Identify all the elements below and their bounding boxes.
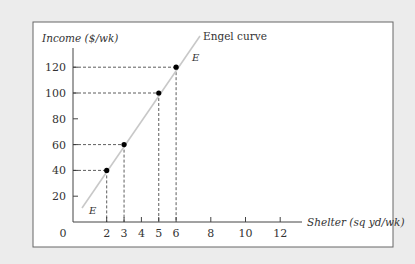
x-tick-label: 2: [103, 227, 110, 240]
y-tick-label: 40: [52, 164, 66, 177]
x-tick-label: 8: [207, 227, 214, 240]
e-label-lower: E: [88, 205, 97, 216]
data-point: [174, 65, 179, 70]
data-point: [104, 168, 109, 173]
chart-panel: [33, 22, 393, 247]
y-tick-label: 60: [52, 139, 66, 152]
data-point: [121, 142, 126, 147]
y-tick-label: 100: [45, 87, 66, 100]
x-tick-label: 6: [173, 227, 180, 240]
x-tick-label: 4: [138, 227, 145, 240]
e-label-upper: E: [191, 52, 200, 63]
y-tick-label: 80: [52, 113, 66, 126]
x-tick-label: 5: [155, 227, 162, 240]
x-axis-label: Shelter (sq yd/wk): [307, 216, 405, 228]
engel-curve-chart: 2040608010012023456810120Income ($/wk)Sh…: [0, 0, 415, 264]
data-point: [156, 90, 161, 95]
y-tick-label: 20: [52, 190, 66, 203]
engel-curve-label: Engel curve: [203, 30, 267, 42]
origin-label: 0: [60, 227, 67, 240]
x-tick-label: 12: [273, 227, 287, 240]
y-tick-label: 120: [45, 61, 66, 74]
x-tick-label: 10: [239, 227, 253, 240]
y-axis-label: Income ($/wk): [41, 32, 118, 44]
x-tick-label: 3: [121, 227, 128, 240]
